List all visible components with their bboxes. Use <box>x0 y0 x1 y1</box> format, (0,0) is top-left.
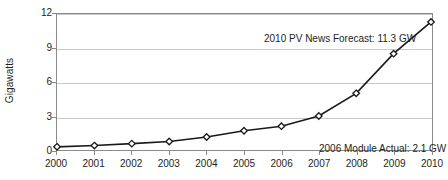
y-tick-label: 12 <box>26 8 52 18</box>
y-axis-tick-labels: 036912 <box>22 0 52 180</box>
data-point-marker <box>54 144 61 151</box>
y-tick-label: 3 <box>26 112 52 122</box>
x-tick-label: 2001 <box>74 158 114 169</box>
data-point-marker <box>91 142 98 149</box>
y-tick-label: 0 <box>26 146 52 156</box>
x-tick-mark <box>319 151 320 155</box>
x-axis: 2000200120022003200420052006200720082009… <box>56 151 433 180</box>
y-tick-mark <box>52 82 56 83</box>
y-axis-title-label: Gigawatts <box>5 57 16 102</box>
x-tick-label: 2010 <box>412 158 448 169</box>
y-tick-mark <box>52 13 56 14</box>
x-tick-label: 2005 <box>224 158 264 169</box>
x-tick-label: 2009 <box>374 158 414 169</box>
y-tick-mark <box>52 151 56 152</box>
x-tick-mark <box>131 151 132 155</box>
x-tick-label: 2002 <box>111 158 151 169</box>
x-tick-mark <box>432 151 433 155</box>
data-point-marker <box>241 127 248 134</box>
x-tick-mark <box>394 151 395 155</box>
y-tick-mark <box>52 48 56 49</box>
y-axis-title: Gigawatts <box>2 0 18 160</box>
x-tick-mark <box>357 151 358 155</box>
data-point-marker <box>166 138 173 145</box>
x-tick-label: 2004 <box>186 158 226 169</box>
x-tick-label: 2000 <box>36 158 76 169</box>
x-tick-label: 2008 <box>337 158 377 169</box>
data-point-marker <box>203 134 210 141</box>
x-tick-label: 2007 <box>299 158 339 169</box>
x-tick-label: 2006 <box>262 158 302 169</box>
y-tick-label: 6 <box>26 77 52 87</box>
plot-area: 2010 PV News Forecast: 11.3 GW 2006 Modu… <box>56 13 433 151</box>
annotation-forecast: 2010 PV News Forecast: 11.3 GW <box>264 33 416 44</box>
y-tick-mark <box>52 117 56 118</box>
x-tick-label: 2003 <box>149 158 189 169</box>
x-tick-mark <box>94 151 95 155</box>
data-point-marker <box>278 123 285 130</box>
x-tick-mark <box>169 151 170 155</box>
x-tick-mark <box>206 151 207 155</box>
y-tick-label: 9 <box>26 43 52 53</box>
chart-container: Gigawatts 036912 2010 PV News Forecast: … <box>0 0 448 180</box>
x-tick-mark <box>244 151 245 155</box>
x-tick-mark <box>282 151 283 155</box>
data-point-marker <box>129 140 136 147</box>
x-tick-mark <box>56 151 57 155</box>
